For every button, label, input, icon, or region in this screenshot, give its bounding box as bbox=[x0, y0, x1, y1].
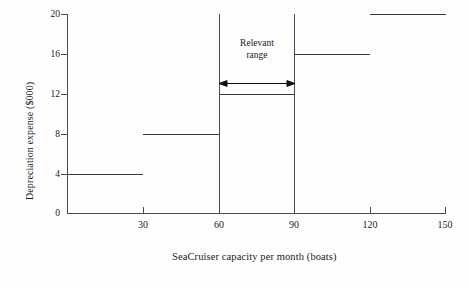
x-axis-line bbox=[67, 213, 446, 214]
x-tick-150 bbox=[445, 207, 446, 213]
y-tick-label-4: 4 bbox=[38, 169, 60, 179]
step-chart: Depreciation expense ($000) 20 16 12 8 4… bbox=[0, 0, 469, 288]
step-segment-90-120 bbox=[294, 54, 370, 55]
y-tick-label-0: 0 bbox=[38, 208, 60, 218]
y-tick-label-12: 12 bbox=[38, 89, 60, 99]
x-tick-120 bbox=[370, 207, 371, 213]
relevant-range-label-line2: range bbox=[246, 50, 267, 60]
relevant-range-label-line1: Relevant bbox=[240, 38, 274, 48]
step-segment-60-90 bbox=[219, 94, 294, 95]
y-tick-label-20: 20 bbox=[38, 9, 60, 19]
y-tick-20 bbox=[61, 14, 67, 15]
y-tick-8 bbox=[61, 134, 67, 135]
y-axis-title: Depreciation expense ($000) bbox=[24, 82, 35, 200]
x-axis-title: SeaCruiser capacity per month (boats) bbox=[172, 251, 337, 262]
x-tick-label-60: 60 bbox=[204, 219, 234, 230]
x-tick-30 bbox=[143, 207, 144, 213]
x-tick-label-120: 120 bbox=[355, 219, 385, 230]
relevant-range-double-arrow-icon bbox=[219, 79, 295, 88]
step-segment-120-150 bbox=[370, 14, 446, 15]
y-tick-16 bbox=[61, 54, 67, 55]
step-segment-30-60 bbox=[143, 134, 219, 135]
y-tick-label-8: 8 bbox=[38, 129, 60, 139]
x-tick-label-150: 150 bbox=[430, 219, 460, 230]
y-tick-label-16: 16 bbox=[38, 49, 60, 59]
y-axis-line bbox=[67, 14, 68, 213]
step-segment-0-30 bbox=[67, 174, 143, 175]
relevant-range-label: Relevant range bbox=[222, 38, 292, 61]
relevant-range-left-boundary bbox=[219, 14, 220, 213]
x-tick-label-90: 90 bbox=[279, 219, 309, 230]
x-tick-label-30: 30 bbox=[128, 219, 158, 230]
relevant-range-right-boundary bbox=[294, 14, 295, 213]
y-tick-12 bbox=[61, 94, 67, 95]
